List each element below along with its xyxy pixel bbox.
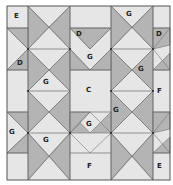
label-0: E bbox=[14, 12, 19, 20]
label-10: G bbox=[113, 106, 119, 114]
label-7: G bbox=[43, 78, 49, 86]
label-11: G bbox=[86, 120, 92, 128]
label-6: G bbox=[138, 65, 144, 73]
label-9: F bbox=[157, 87, 162, 95]
label-4: D bbox=[17, 59, 23, 67]
label-15: E bbox=[157, 162, 162, 170]
label-5: G bbox=[87, 53, 93, 61]
label-1: G bbox=[126, 10, 132, 18]
label-3: D bbox=[156, 30, 162, 38]
label-2: D bbox=[76, 30, 82, 38]
quilt-diagram: E G D D D G G G C F G G G G F E bbox=[0, 0, 173, 185]
label-14: F bbox=[87, 162, 92, 170]
label-8: C bbox=[86, 86, 91, 94]
label-13: G bbox=[43, 136, 49, 144]
label-12: G bbox=[9, 128, 15, 136]
